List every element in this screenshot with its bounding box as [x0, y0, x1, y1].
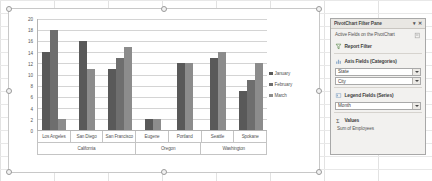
filter-pane-section-values: ΣValues	[331, 115, 425, 125]
bar-march[interactable]	[185, 63, 193, 130]
resize-handle-bottom-middle[interactable]	[161, 169, 167, 175]
legend-swatch-icon	[269, 94, 273, 98]
bar-march[interactable]	[87, 69, 95, 130]
category-label: Seattle	[202, 131, 235, 143]
close-icon[interactable]: ✕	[418, 21, 422, 26]
resize-handle-top-middle[interactable]	[161, 6, 167, 12]
category-group-label: California	[37, 143, 136, 155]
funnel-icon	[335, 43, 342, 50]
worksheet-gridline	[0, 0, 432, 1]
filter-pane-section-legend_fields: Legend Fields (Series)	[331, 90, 425, 100]
bar-january[interactable]	[177, 63, 185, 130]
bar-group[interactable]	[71, 19, 104, 130]
values-field-item[interactable]: Sum of Employees	[331, 125, 425, 131]
bar-series-container	[38, 19, 267, 130]
field-value: State	[336, 69, 412, 74]
category-label: Los Angeles	[37, 131, 71, 143]
category-label: San Francisco	[103, 131, 136, 143]
category-label: Spokane	[234, 131, 267, 143]
resize-handle-top-left[interactable]	[6, 6, 12, 12]
legend-fields-icon	[335, 92, 342, 99]
filter-pane-sections: Report FilterAxis Fields (Categories)Sta…	[331, 41, 425, 131]
axis-fields-icon	[335, 58, 342, 65]
legend-item[interactable]: January	[269, 71, 313, 76]
y-axis-tick-label: 12	[17, 61, 33, 66]
y-axis-tick-label: 14	[17, 50, 33, 55]
bar-march[interactable]	[255, 63, 263, 130]
bar-group[interactable]	[234, 19, 267, 130]
category-label: San Diego	[71, 131, 104, 143]
filter-pane-subtitle: Active Fields on the PivotChart	[335, 32, 414, 39]
category-group-label: Washington	[201, 143, 267, 155]
plot-area[interactable]	[37, 19, 267, 131]
pivotchart-object[interactable]: 20181614121086420 Los AngelesSan DiegoSa…	[8, 8, 320, 173]
section-label: Values	[345, 118, 360, 123]
bar-january[interactable]	[42, 52, 50, 130]
bar-group[interactable]	[202, 19, 235, 130]
bar-february[interactable]	[116, 58, 124, 130]
category-axis-states: CaliforniaOregonWashington	[37, 143, 267, 155]
field-dropdown[interactable]: State	[335, 68, 421, 76]
legend-label: February	[275, 82, 293, 87]
svg-text:Σ: Σ	[336, 117, 339, 123]
category-label: Eugene	[136, 131, 169, 143]
legend-label: March	[275, 93, 287, 98]
chart-legend[interactable]: JanuaryFebruaryMarch	[269, 71, 313, 104]
y-axis-tick-label: 10	[17, 73, 33, 78]
y-axis-tick-label: 6	[17, 95, 33, 100]
bar-january[interactable]	[145, 119, 153, 130]
bar-january[interactable]	[79, 41, 87, 130]
bar-group[interactable]	[136, 19, 169, 130]
field-value: City	[336, 79, 412, 84]
bar-march[interactable]	[153, 119, 161, 130]
field-dropdown[interactable]: City	[335, 77, 421, 85]
y-axis-tick-label: 20	[17, 17, 33, 22]
divider	[334, 87, 422, 88]
field-dropdown[interactable]: Month	[335, 102, 421, 110]
bar-march[interactable]	[58, 119, 66, 130]
bar-group[interactable]	[38, 19, 71, 130]
chart-plot-wrapper: 20181614121086420 Los AngelesSan DiegoSa…	[9, 9, 319, 172]
category-axis-cities: Los AngelesSan DiegoSan FranciscoEugeneP…	[37, 131, 267, 143]
filter-pane-section-report_filter: Report Filter	[331, 41, 425, 51]
y-axis-tick-label: 18	[17, 28, 33, 33]
field-value: Month	[336, 103, 412, 108]
bar-march[interactable]	[124, 47, 132, 130]
bar-january[interactable]	[108, 69, 116, 130]
filter-pane-titlebar: PivotChart Filter Pane ▾ ✕	[331, 19, 425, 29]
legend-swatch-icon	[269, 83, 273, 87]
bar-january[interactable]	[210, 58, 218, 130]
field-list-icon[interactable]	[414, 32, 421, 39]
bar-group[interactable]	[103, 19, 136, 130]
resize-handle-top-right[interactable]	[316, 6, 322, 12]
filter-pane-title: PivotChart Filter Pane	[334, 21, 411, 26]
y-axis-tick-label: 8	[17, 84, 33, 89]
chevron-down-icon[interactable]	[412, 78, 420, 84]
chevron-down-icon[interactable]	[412, 103, 420, 109]
sigma-icon: Σ	[335, 117, 342, 124]
bar-group[interactable]	[169, 19, 202, 130]
resize-handle-middle-left[interactable]	[6, 88, 12, 94]
y-axis-tick-label: 16	[17, 39, 33, 44]
chevron-down-icon[interactable]: ▾	[413, 21, 416, 26]
resize-handle-bottom-right[interactable]	[316, 169, 322, 175]
legend-swatch-icon	[269, 72, 273, 76]
legend-item[interactable]: February	[269, 82, 313, 87]
pivotchart-filter-pane[interactable]: PivotChart Filter Pane ▾ ✕ Active Fields…	[330, 18, 426, 155]
chevron-down-icon[interactable]	[412, 69, 420, 75]
value-axis: 20181614121086420	[19, 19, 35, 131]
resize-handle-bottom-left[interactable]	[6, 169, 12, 175]
category-label: Portland	[169, 131, 202, 143]
legend-label: January	[275, 71, 291, 76]
legend-item[interactable]: March	[269, 93, 313, 98]
bar-march[interactable]	[218, 52, 226, 130]
bar-february[interactable]	[247, 80, 255, 130]
filter-pane-section-axis_fields: Axis Fields (Categories)	[331, 56, 425, 66]
bar-february[interactable]	[50, 30, 58, 130]
section-label: Axis Fields (Categories)	[345, 59, 397, 64]
y-axis-tick-label: 2	[17, 117, 33, 122]
resize-handle-middle-right[interactable]	[316, 88, 322, 94]
bar-january[interactable]	[239, 91, 247, 130]
divider	[334, 53, 422, 54]
section-label: Report Filter	[345, 44, 372, 49]
